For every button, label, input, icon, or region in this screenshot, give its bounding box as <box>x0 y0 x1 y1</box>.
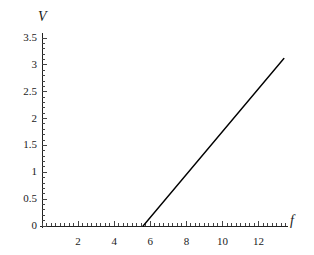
x-tick-label: 4 <box>102 236 126 247</box>
y-tick-label: 2.5 <box>7 86 37 97</box>
x-axis-title: f <box>290 214 294 228</box>
x-tick-label: 10 <box>211 236 235 247</box>
y-axis-title: V <box>38 10 47 24</box>
y-tick-label: 0 <box>7 220 37 231</box>
y-tick-label: 3.5 <box>7 32 37 43</box>
chart-plot-area: 00.511.522.533.5 24681012 V f <box>0 0 314 255</box>
chart-canvas <box>0 0 314 255</box>
series-line-0 <box>143 58 284 226</box>
x-tick-label: 2 <box>66 236 90 247</box>
y-tick-label: 1.5 <box>7 139 37 150</box>
y-tick-label: 3 <box>7 59 37 70</box>
x-axis-tick-marks <box>42 221 286 226</box>
x-tick-label: 8 <box>174 236 198 247</box>
axes-group <box>40 33 288 228</box>
y-axis-tick-marks <box>42 38 47 226</box>
y-tick-label: 2 <box>7 113 37 124</box>
data-series-lines <box>143 58 284 226</box>
x-tick-label: 6 <box>138 236 162 247</box>
y-tick-label: 1 <box>7 166 37 177</box>
x-tick-label: 12 <box>247 236 271 247</box>
y-tick-label: 0.5 <box>7 193 37 204</box>
